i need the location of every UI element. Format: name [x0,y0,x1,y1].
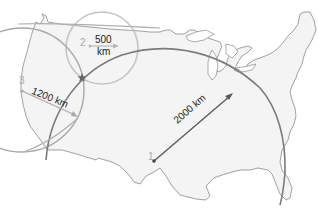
station-3-number: 3 [19,76,25,86]
us-map [0,0,318,210]
station-1-number: 1 [148,152,154,162]
station-2-dot [89,45,92,48]
station-3-dot [21,90,24,93]
station-2-distance-unit: km [97,47,110,57]
trilateration-diagram: 1 2000 km 2 500 km 3 1200 km [0,0,318,210]
station-2-number: 2 [80,38,86,48]
station-2-distance-value: 500 [95,35,112,45]
